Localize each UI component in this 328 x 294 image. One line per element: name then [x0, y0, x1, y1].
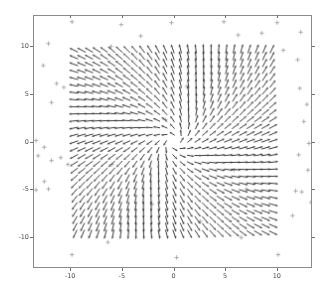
y-tick-label: 5 [7, 90, 29, 98]
x-tickmark [122, 268, 123, 271]
y-tickmark [30, 94, 33, 95]
y-tick-label: 10 [7, 42, 29, 50]
y-tick-label: 0 [7, 138, 29, 146]
x-tickmark [277, 268, 278, 271]
x-tickmark-top [225, 15, 226, 18]
y-tickmark [30, 189, 33, 190]
x-tickmark [174, 268, 175, 271]
y-tickmark [30, 142, 33, 143]
y-tick-label: -5 [7, 185, 29, 193]
quiver-plot-figure: -10-50510-10-50510 [0, 0, 328, 294]
x-tickmark-top [70, 15, 71, 18]
vector-field-canvas [34, 16, 311, 267]
y-tick-label: -10 [7, 233, 29, 241]
y-tickmark-right [312, 142, 315, 143]
plot-axes [33, 15, 312, 268]
x-tickmark-top [174, 15, 175, 18]
y-tickmark [30, 237, 33, 238]
x-tick-label: -10 [65, 272, 76, 280]
x-tick-label: 10 [273, 272, 281, 280]
x-tick-label: 5 [223, 272, 227, 280]
y-tickmark-right [312, 46, 315, 47]
y-tickmark [30, 46, 33, 47]
y-tickmark-right [312, 94, 315, 95]
x-tickmark [225, 268, 226, 271]
x-tickmark [70, 268, 71, 271]
x-tick-label: 0 [171, 272, 175, 280]
y-tickmark-right [312, 189, 315, 190]
x-tick-label: -5 [119, 272, 125, 280]
y-tickmark-right [312, 237, 315, 238]
x-tickmark-top [122, 15, 123, 18]
x-tickmark-top [277, 15, 278, 18]
